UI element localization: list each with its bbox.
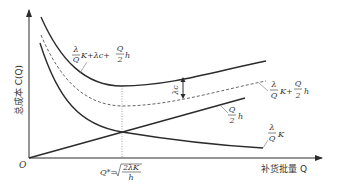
label-total-inventory: λ Q K+ Q 2 h xyxy=(270,79,309,100)
svg-text:Q*=: Q*= xyxy=(100,168,117,177)
svg-text:K+: K+ xyxy=(279,87,293,96)
gap-label: λc xyxy=(171,85,180,96)
origin-label: O xyxy=(19,160,27,170)
svg-text:λ: λ xyxy=(270,80,276,89)
svg-text:Q: Q xyxy=(117,44,124,53)
svg-text:λ: λ xyxy=(72,45,78,54)
svg-text:K: K xyxy=(277,130,285,139)
svg-text:Q: Q xyxy=(73,55,80,64)
holding-cost-line xyxy=(29,98,245,158)
svg-text:2λK: 2λK xyxy=(122,163,140,172)
svg-text:Q: Q xyxy=(269,134,276,143)
svg-text:h: h xyxy=(125,51,130,60)
svg-text:h: h xyxy=(128,173,133,182)
svg-text:λ: λ xyxy=(268,123,274,132)
svg-text:Q: Q xyxy=(271,91,278,100)
x-axis-label: 补货批量 Q xyxy=(261,163,307,174)
label-ordering-cost: λ Q K xyxy=(268,123,285,143)
label-total-with-purchase: λ Q K+λc+ Q 2 h xyxy=(72,44,130,64)
svg-text:K+λc+: K+λc+ xyxy=(80,51,110,60)
optimal-q-formula: Q*= 2λK h xyxy=(100,163,142,182)
svg-text:Q: Q xyxy=(295,79,302,88)
label-holding-cost: Q 2 h xyxy=(228,105,243,125)
svg-text:h: h xyxy=(238,112,243,121)
svg-text:2: 2 xyxy=(294,91,300,100)
svg-text:2: 2 xyxy=(116,55,122,64)
svg-text:Q: Q xyxy=(229,105,236,114)
svg-text:2: 2 xyxy=(228,116,234,125)
svg-text:h: h xyxy=(304,87,309,96)
y-axis-label: 总成本 C(Q) xyxy=(13,65,24,115)
eoq-cost-diagram: λc λ Q K+λc+ Q 2 h λ Q K+ Q 2 h Q 2 h λ … xyxy=(0,0,337,190)
